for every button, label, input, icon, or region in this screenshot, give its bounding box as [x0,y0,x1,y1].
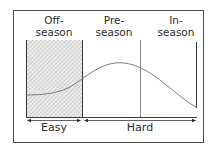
phase-label-off-line2: season [24,26,84,38]
phase-label-pre-season: Pre- season [84,14,144,38]
intensity-label-hard: Hard [110,122,170,134]
phase-label-pre-line1: Pre- [84,14,144,26]
phase-label-pre-line2: season [84,26,144,38]
phase-label-in-season: In- season [146,14,206,38]
training-periodization-diagram: Off- season Pre- season In- season Easy … [0,0,216,149]
intensity-label-easy: Easy [24,122,84,134]
phase-label-in-line1: In- [146,14,206,26]
phase-label-off-line1: Off- [24,14,84,26]
off-season-hatched-region [26,40,83,117]
phase-label-in-line2: season [146,26,206,38]
phase-label-off-season: Off- season [24,14,84,38]
